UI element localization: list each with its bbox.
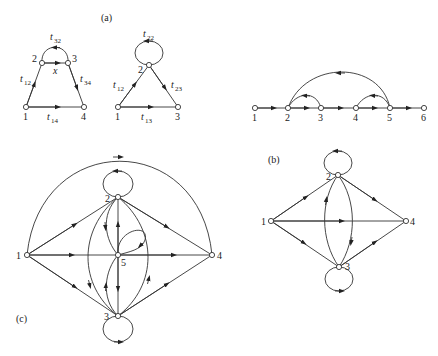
node-3 (318, 105, 323, 110)
edge-label-sub: 13 (145, 117, 153, 125)
node-label: 1 (261, 216, 266, 227)
arrow-icon (271, 221, 304, 243)
edge-5-2 (288, 72, 390, 108)
arrow-icon (338, 175, 375, 200)
node-1 (115, 104, 120, 109)
graph-chain: 1 2 3 4 5 6 (252, 72, 427, 123)
node-5 (115, 252, 120, 257)
arrow-icon (118, 284, 167, 316)
arrow-icon (27, 225, 75, 256)
arrow-icon (106, 285, 107, 291)
edge-label-sub: 23 (175, 85, 183, 93)
edge-label: t (50, 31, 53, 42)
node-1 (252, 105, 257, 110)
node-label: 1 (23, 111, 28, 122)
graph-a1: 1 2 3 4 t 12 x t 32 t 34 t 14 (20, 31, 92, 125)
node-6 (421, 105, 426, 110)
node-4 (403, 218, 408, 223)
panel-b-label: (b) (268, 154, 280, 166)
node-label: 1 (115, 111, 120, 122)
edge-label-sub: 32 (54, 37, 62, 45)
node-2 (115, 194, 120, 199)
node-label: 4 (353, 112, 358, 123)
arrow-icon (118, 197, 167, 227)
node-3 (115, 313, 120, 318)
node-label: 3 (72, 53, 77, 64)
graph-a2: 1 2 3 t 12 t 22 t 23 t 13 (113, 28, 183, 125)
node-label: 1 (16, 250, 21, 261)
node-1 (23, 104, 28, 109)
edge-label: t (47, 111, 50, 122)
graph-b: 1 2 3 4 (261, 151, 415, 291)
node-1 (268, 218, 273, 223)
edge-3-2 (42, 47, 68, 63)
node-2 (39, 60, 44, 65)
edge-label: t (113, 79, 116, 90)
edge-label-sub: 22 (147, 34, 155, 42)
node-3 (175, 104, 180, 109)
edge-label: t (20, 73, 23, 84)
self-loop-5 (118, 230, 146, 255)
node-2 (146, 62, 151, 67)
node-4 (353, 105, 358, 110)
node-label: 6 (421, 112, 426, 123)
edge-2-3-outer (88, 197, 118, 316)
edge-5-4 (356, 95, 390, 108)
node-label: 4 (217, 250, 222, 261)
arrow-icon (105, 222, 106, 228)
panel-a-label: (a) (101, 12, 112, 24)
node-label: 5 (387, 112, 392, 123)
node-label: 3 (345, 261, 350, 272)
node-label: 2 (32, 53, 37, 64)
node-4 (209, 252, 214, 257)
arrow-icon (304, 96, 310, 97)
edge-label-sub: 34 (84, 79, 92, 87)
edge-label-sub: 12 (117, 85, 125, 93)
node-label: 2 (105, 193, 110, 204)
signal-flow-graphs-figure: (a) 1 2 3 4 t 12 x t 32 t 34 t 14 (0, 0, 438, 356)
arrow-icon (149, 65, 165, 88)
node-1 (24, 252, 29, 257)
edge-label-sub: 12 (24, 79, 32, 87)
node-label: 1 (252, 112, 257, 123)
graph-c: 1 2 3 4 5 (16, 157, 222, 342)
node-label: 2 (326, 171, 331, 182)
edge-label: x (52, 65, 58, 76)
arrow-icon (89, 280, 91, 286)
node-label: 4 (410, 216, 415, 227)
self-loop-2 (135, 41, 163, 65)
arrow-icon (148, 278, 150, 284)
node-4 (81, 104, 86, 109)
edge-label: t (80, 73, 83, 84)
panel-c-label: (c) (16, 313, 27, 325)
node-2 (285, 105, 290, 110)
node-label: 2 (138, 64, 143, 75)
node-2 (335, 172, 340, 177)
node-label: 5 (121, 257, 126, 268)
arrow-icon (27, 255, 75, 287)
arrow-icon (26, 84, 35, 107)
edge-label: t (171, 79, 174, 90)
arrow-icon (372, 96, 378, 97)
node-label: 2 (285, 112, 290, 123)
node-3 (336, 264, 341, 269)
node-3 (65, 60, 70, 65)
edge-label: t (141, 111, 144, 122)
node-label: 3 (318, 112, 323, 123)
edge-label-sub: 14 (51, 117, 59, 125)
edge-1-4-arc (27, 161, 212, 255)
node-label: 3 (104, 311, 109, 322)
edge-2-5 (106, 197, 118, 255)
node-label: 4 (81, 111, 86, 122)
edge-label: t (143, 28, 146, 39)
arrow-icon (68, 63, 77, 88)
arrow-icon (271, 197, 306, 221)
node-5 (387, 105, 392, 110)
node-label: 3 (175, 111, 180, 122)
